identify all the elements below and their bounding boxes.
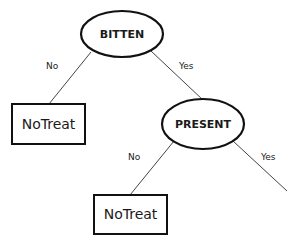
node-present-label: PRESENT bbox=[175, 118, 232, 131]
edge-label-present-yes: Yes bbox=[260, 152, 276, 162]
node-notreat-2-label: NoTreat bbox=[104, 206, 158, 222]
decision-tree-diagram: No Yes No Yes BITTEN NoTreat PRESENT NoT… bbox=[0, 0, 296, 244]
node-notreat-2: NoTreat bbox=[94, 195, 167, 234]
edge-label-present-no: No bbox=[128, 152, 141, 162]
edge-bitten-no bbox=[49, 52, 91, 104]
node-notreat-1-label: NoTreat bbox=[22, 116, 76, 132]
edge-present-no bbox=[130, 141, 174, 195]
node-bitten: BITTEN bbox=[81, 11, 163, 57]
node-bitten-label: BITTEN bbox=[100, 28, 144, 41]
node-present: PRESENT bbox=[162, 99, 244, 149]
edge-present-yes bbox=[233, 141, 287, 191]
edge-bitten-yes bbox=[151, 51, 203, 100]
node-notreat-1: NoTreat bbox=[12, 104, 85, 144]
edge-label-bitten-yes: Yes bbox=[178, 61, 194, 71]
edge-label-bitten-no: No bbox=[46, 61, 59, 71]
